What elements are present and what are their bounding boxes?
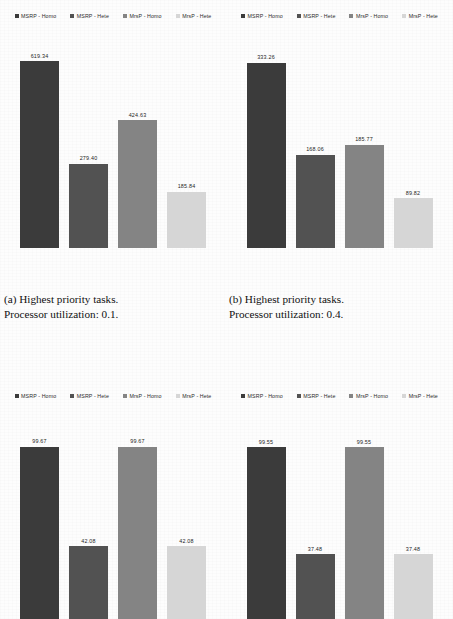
bar-group: 424.63 (118, 28, 157, 248)
bar-value-label: 89.82 (406, 190, 421, 196)
bar-value-label: 168.06 (306, 146, 324, 152)
bar-group: 42.08 (167, 420, 206, 619)
chart-legend-d: MSRP - Homo MSRP - Hete MrsP - Homo MrsP… (226, 393, 453, 399)
plot-area-b: 333.26 168.06 185.77 89.82 (226, 28, 453, 248)
legend-item-mrsp-hete: MrsP - Hete (176, 393, 212, 399)
legend-item-msrp-homo: MSRP - Homo (241, 393, 283, 399)
bar-value-label: 42.08 (81, 538, 96, 544)
bar-group: 99.55 (247, 420, 286, 619)
bar-group: 42.08 (69, 420, 108, 619)
legend-label-mrsp-homo: MrsP - Homo (129, 13, 161, 19)
bar (296, 155, 335, 248)
bar (69, 164, 108, 248)
bar (247, 447, 286, 619)
legend-label-msrp-hete: MSRP - Hete (77, 393, 109, 399)
caption-a: (a) Highest priority tasks. Processor ut… (4, 292, 219, 322)
legend-swatch-mrsp-hete (402, 394, 406, 398)
legend-swatch-msrp-homo (241, 14, 245, 18)
legend-label-msrp-hete: MSRP - Hete (303, 393, 335, 399)
plot-area-d: 99.55 37.48 99.55 37.48 (226, 420, 453, 619)
legend-label-msrp-homo: MSRP - Homo (248, 13, 283, 19)
caption-b-line1: (b) Highest priority tasks. (229, 292, 444, 307)
legend-item-mrsp-homo: MrsP - Homo (349, 13, 388, 19)
legend-swatch-mrsp-homo (349, 14, 353, 18)
legend-item-msrp-hete: MSRP - Hete (297, 393, 336, 399)
bar-value-label: 185.77 (355, 136, 373, 142)
bar-value-label: 99.67 (130, 438, 145, 444)
legend-item-mrsp-homo: MrsP - Homo (123, 13, 162, 19)
legend-label-mrsp-hete: MrsP - Hete (182, 13, 211, 19)
legend-swatch-mrsp-homo (123, 14, 127, 18)
legend-swatch-msrp-hete (297, 14, 301, 18)
legend-swatch-msrp-homo (15, 394, 19, 398)
bar-value-label: 619.34 (31, 53, 49, 59)
chart-legend-a: MSRP - Homo MSRP - Hete MrsP - Homo MrsP… (0, 13, 226, 19)
legend-swatch-mrsp-hete (176, 14, 180, 18)
legend-item-msrp-homo: MSRP - Homo (241, 13, 283, 19)
bar-value-label: 37.48 (406, 546, 421, 552)
legend-swatch-mrsp-homo (349, 394, 353, 398)
bar (296, 554, 335, 619)
caption-b: (b) Highest priority tasks. Processor ut… (229, 292, 444, 322)
bar-group: 99.67 (20, 420, 59, 619)
legend-label-msrp-homo: MSRP - Homo (21, 393, 56, 399)
bar (394, 554, 433, 619)
bar-group: 168.06 (296, 28, 335, 248)
bar (69, 546, 108, 619)
bar-value-label: 99.55 (259, 439, 274, 445)
legend-label-mrsp-hete: MrsP - Hete (409, 393, 438, 399)
plot-area-c: 99.67 42.08 99.67 42.08 (0, 420, 226, 619)
caption-a-line2: Processor utilization: 0.1. (4, 307, 219, 322)
legend-swatch-msrp-hete (70, 14, 74, 18)
chart-legend-b: MSRP - Homo MSRP - Hete MrsP - Homo MrsP… (226, 13, 453, 19)
bar-value-label: 333.26 (257, 54, 275, 60)
bar (167, 192, 206, 248)
chart-panel-a: MSRP - Homo MSRP - Hete MrsP - Homo MrsP… (0, 0, 226, 290)
legend-item-msrp-homo: MSRP - Homo (15, 393, 57, 399)
bar (118, 120, 157, 248)
legend-item-msrp-hete: MSRP - Hete (297, 13, 336, 19)
bar-group: 619.34 (20, 28, 59, 248)
bar-group: 37.48 (296, 420, 335, 619)
legend-item-msrp-homo: MSRP - Homo (15, 13, 57, 19)
legend-swatch-msrp-hete (70, 394, 74, 398)
bar (118, 447, 157, 619)
legend-label-mrsp-homo: MrsP - Homo (356, 13, 388, 19)
bar-group: 279.40 (69, 28, 108, 248)
bar-value-label: 424.63 (129, 112, 147, 118)
chart-panel-b: MSRP - Homo MSRP - Hete MrsP - Homo MrsP… (226, 0, 453, 290)
legend-label-msrp-homo: MSRP - Homo (248, 393, 283, 399)
legend-swatch-msrp-hete (297, 394, 301, 398)
bar (345, 447, 384, 619)
bar-value-label: 185.84 (178, 183, 196, 189)
legend-label-msrp-hete: MSRP - Hete (303, 13, 335, 19)
legend-swatch-mrsp-homo (123, 394, 127, 398)
legend-label-mrsp-hete: MrsP - Hete (182, 393, 211, 399)
legend-label-mrsp-homo: MrsP - Homo (356, 393, 388, 399)
chart-legend-c: MSRP - Homo MSRP - Hete MrsP - Homo MrsP… (0, 393, 226, 399)
bar-group: 185.77 (345, 28, 384, 248)
bar (394, 198, 433, 248)
figure-grid: MSRP - Homo MSRP - Hete MrsP - Homo MrsP… (0, 0, 453, 619)
legend-item-mrsp-hete: MrsP - Hete (402, 393, 438, 399)
legend-item-msrp-hete: MSRP - Hete (70, 13, 109, 19)
bar (345, 145, 384, 248)
legend-item-mrsp-hete: MrsP - Hete (176, 13, 212, 19)
bar-group: 99.55 (345, 420, 384, 619)
legend-label-msrp-homo: MSRP - Homo (21, 13, 56, 19)
bar (20, 447, 59, 619)
legend-swatch-msrp-homo (15, 14, 19, 18)
bar-group: 89.82 (394, 28, 433, 248)
chart-panel-c: MSRP - Homo MSRP - Hete MrsP - Homo MrsP… (0, 380, 226, 619)
bar-value-label: 37.48 (308, 546, 323, 552)
bar-value-label: 99.55 (357, 439, 372, 445)
legend-item-msrp-hete: MSRP - Hete (70, 393, 109, 399)
bar-value-label: 42.08 (179, 538, 194, 544)
plot-area-a: 619.34 279.40 424.63 185.84 (0, 28, 226, 248)
caption-a-line1: (a) Highest priority tasks. (4, 292, 219, 307)
legend-swatch-mrsp-hete (176, 394, 180, 398)
bar-group: 37.48 (394, 420, 433, 619)
legend-label-mrsp-homo: MrsP - Homo (129, 393, 161, 399)
bar (167, 546, 206, 619)
bar-value-label: 99.67 (32, 438, 47, 444)
